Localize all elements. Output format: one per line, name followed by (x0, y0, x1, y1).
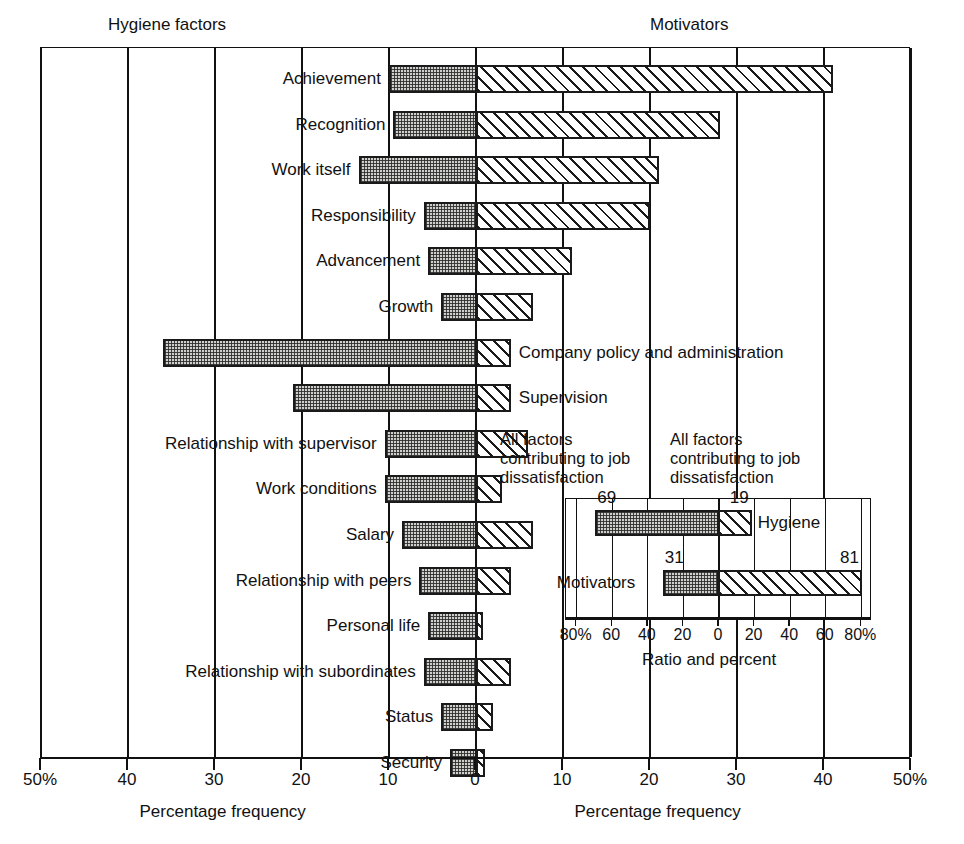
motivator-bar (476, 703, 493, 731)
inset-x-tick (824, 618, 825, 626)
inset-x-tick-label: 80% (844, 626, 876, 644)
x-tick (648, 758, 650, 770)
x-tick-label: 20 (292, 770, 311, 790)
hygiene-bar (385, 475, 477, 503)
inset-chart: All factors contributing to job dissatis… (500, 430, 900, 675)
x-tick-label: 40 (118, 770, 137, 790)
x-axis-title-left: Percentage frequency (140, 802, 306, 822)
hygiene-bar (441, 703, 477, 731)
inset-gridline (825, 499, 826, 617)
inset-x-tick (682, 618, 683, 626)
category-label: Growth (378, 293, 433, 321)
motivator-bar (476, 384, 511, 412)
x-tick-label: 50% (23, 770, 57, 790)
inset-gridline (754, 499, 755, 617)
x-axis-title-right: Percentage frequency (575, 802, 741, 822)
inset-x-tick-label: 40 (638, 626, 656, 644)
x-tick (474, 758, 476, 770)
bar-row: Achievement (41, 65, 909, 95)
category-label: Work itself (272, 156, 351, 184)
category-label: Salary (346, 521, 394, 549)
hygiene-bar (428, 612, 477, 640)
category-label: Achievement (283, 65, 381, 93)
category-label: Relationship with peers (236, 567, 412, 595)
category-label: Advancement (316, 247, 420, 275)
category-label: Supervision (519, 384, 608, 412)
x-tick-label: 10 (379, 770, 398, 790)
inset-header-right: All factors contributing to job dissatis… (670, 430, 830, 487)
hygiene-bar (163, 339, 477, 367)
motivator-bar (476, 65, 833, 93)
category-label: Personal life (327, 612, 421, 640)
x-tick (735, 758, 737, 770)
x-tick (300, 758, 302, 770)
inset-x-tick (717, 618, 718, 626)
inset-x-tick-label: 20 (674, 626, 692, 644)
inset-axis-label: Ratio and percent (642, 650, 776, 670)
inset-header-left: All factors contributing to job dissatis… (500, 430, 660, 487)
inset-x-tick (611, 618, 612, 626)
x-tick-label: 30 (205, 770, 224, 790)
hygiene-bar (402, 521, 477, 549)
bar-row: Responsibility (41, 202, 909, 232)
motivators-title: Motivators (650, 15, 728, 35)
bar-row: Status (41, 703, 909, 733)
x-tick (822, 758, 824, 770)
inset-x-tick (788, 618, 789, 626)
gridline-pos50 (910, 48, 911, 757)
category-label: Company policy and administration (519, 339, 784, 367)
x-tick-label: 0 (470, 770, 479, 790)
inset-row-label: Motivators (557, 573, 635, 593)
inset-x-tick-label: 20 (745, 626, 763, 644)
inset-hygiene-value: 69 (597, 488, 616, 508)
inset-x-tick (575, 618, 576, 626)
hygiene-bar (428, 247, 477, 275)
inset-hygiene-bar (663, 570, 719, 596)
x-tick-label: 20 (640, 770, 659, 790)
category-label: Status (385, 703, 433, 731)
hygiene-factors-title: Hygiene factors (108, 15, 226, 35)
category-label: Work conditions (256, 475, 377, 503)
hygiene-bar (293, 384, 477, 412)
hygiene-bar (385, 430, 477, 458)
bar-row: Work itself (41, 156, 909, 186)
inset-row-label: Hygiene (758, 513, 820, 533)
inset-hygiene-value: 31 (665, 548, 684, 568)
inset-motivator-bar (718, 510, 752, 536)
x-tick (909, 758, 911, 770)
inset-x-tick (860, 618, 861, 626)
motivator-bar (476, 247, 572, 275)
x-tick (561, 758, 563, 770)
bar-row: Advancement (41, 247, 909, 277)
inset-x-tick (753, 618, 754, 626)
x-tick-label: 10 (553, 770, 572, 790)
category-label: Relationship with supervisor (165, 430, 377, 458)
x-tick-label: 30 (727, 770, 746, 790)
hygiene-bar (359, 156, 477, 184)
inset-x-tick-label: 40 (780, 626, 798, 644)
hygiene-bar (424, 658, 477, 686)
inset-gridline (576, 499, 577, 617)
inset-hygiene-bar (595, 510, 719, 536)
motivator-bar (476, 293, 533, 321)
chart-page: Hygiene factors Motivators AchievementRe… (0, 0, 964, 844)
x-tick (387, 758, 389, 770)
x-tick (126, 758, 128, 770)
x-tick-label: 50% (893, 770, 927, 790)
category-label: Responsibility (311, 202, 416, 230)
inset-motivator-bar (718, 570, 862, 596)
x-tick-label: 40 (814, 770, 833, 790)
bar-row: Recognition (41, 111, 909, 141)
motivator-bar (476, 475, 502, 503)
category-label: Relationship with subordinates (185, 658, 416, 686)
hygiene-bar (393, 111, 477, 139)
hygiene-bar (424, 202, 477, 230)
bar-row: Growth (41, 293, 909, 323)
inset-x-tick-label: 60 (602, 626, 620, 644)
inset-motivator-value: 81 (840, 548, 859, 568)
hygiene-bar (419, 567, 477, 595)
inset-motivator-value: 19 (730, 488, 749, 508)
motivator-bar (476, 202, 650, 230)
motivator-bar (476, 339, 511, 367)
bar-row: Supervision (41, 384, 909, 414)
